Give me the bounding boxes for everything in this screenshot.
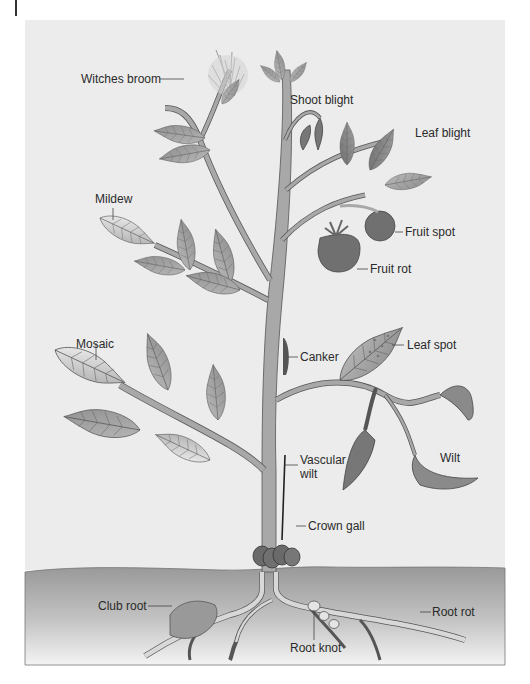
label-root-rot: Root rot	[432, 606, 475, 619]
fruit-rot-tomato	[318, 234, 360, 272]
label-club-root: Club root	[98, 600, 147, 613]
label-witches-broom: Witches broom	[81, 73, 161, 86]
label-crown-gall: Crown gall	[308, 520, 365, 533]
label-vascular-wilt-line1: Vascular	[300, 454, 346, 467]
label-mildew: Mildew	[95, 193, 132, 206]
label-mosaic: Mosaic	[76, 338, 114, 351]
fruit-spot-tomato	[365, 211, 395, 241]
plant-disease-diagram: Witches broom Shoot blight Leaf blight M…	[0, 0, 530, 684]
label-leaf-blight: Leaf blight	[415, 127, 470, 140]
label-leaf-spot: Leaf spot	[407, 339, 456, 352]
label-vascular-wilt-line2: wilt	[300, 468, 317, 481]
label-root-knot: Root knot	[290, 642, 341, 655]
label-fruit-spot: Fruit spot	[405, 226, 455, 239]
label-shoot-blight: Shoot blight	[290, 94, 353, 107]
label-canker: Canker	[300, 351, 339, 364]
crown-gall-growth	[253, 545, 300, 568]
label-fruit-rot: Fruit rot	[370, 263, 411, 276]
label-wilt: Wilt	[440, 452, 460, 465]
